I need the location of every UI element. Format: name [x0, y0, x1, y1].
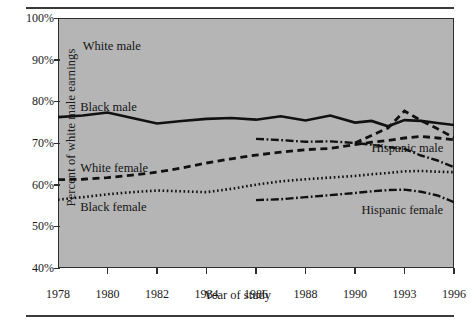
series-line	[256, 190, 454, 203]
y-axis-tick-label: 90%	[8, 54, 54, 66]
x-axis-tick-mark	[453, 268, 455, 274]
y-axis-tick-label: 50%	[8, 220, 54, 232]
x-axis-tick-mark	[404, 268, 406, 274]
series-label-white-male: White male	[83, 40, 141, 53]
series-label-white-female: White female	[80, 162, 148, 175]
series-label-hispanic-male: Hispanic male	[372, 142, 444, 155]
x-axis-tick-mark	[156, 268, 158, 274]
x-axis-tick-mark	[206, 268, 208, 274]
top-horizontal-rule	[26, 7, 454, 9]
y-axis-tick-label: 40%	[8, 262, 54, 274]
x-axis-tick-mark	[354, 268, 356, 274]
series-label-black-male: Black male	[80, 101, 137, 114]
y-axis-tick-label: 60%	[8, 179, 54, 191]
x-axis-tick-mark	[255, 268, 257, 274]
figure-container: Percent of white male earnings 100%90%80…	[0, 0, 475, 325]
y-axis-tick-label: 70%	[8, 137, 54, 149]
y-axis-tick-label: 80%	[8, 95, 54, 107]
y-axis-ticks: 100%90%80%70%60%50%40%	[6, 18, 54, 268]
series-label-black-female: Black female	[80, 201, 146, 214]
x-axis-title: Year of study	[0, 288, 475, 303]
plot-area: Percent of white male earnings 100%90%80…	[58, 18, 454, 268]
x-axis-tick-mark	[107, 268, 109, 274]
y-axis-tick-label: 100%	[8, 12, 54, 24]
x-axis-tick-mark	[305, 268, 307, 274]
bottom-horizontal-rule	[26, 315, 454, 317]
series-label-hispanic-female: Hispanic female	[362, 204, 444, 217]
